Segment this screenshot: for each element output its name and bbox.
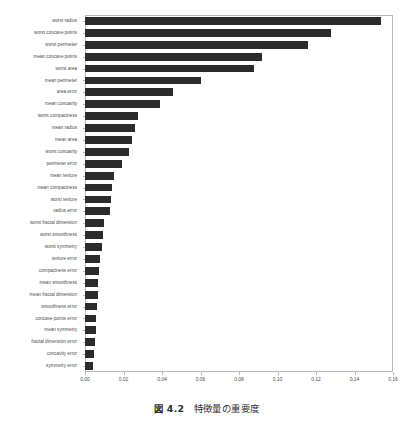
bar — [85, 279, 98, 287]
y-axis-tick-label: mean perimeter — [45, 75, 77, 87]
x-axis-tick-label: 0.16 — [388, 376, 398, 382]
x-axis-tick — [239, 372, 240, 375]
bar — [85, 172, 114, 180]
bar — [85, 77, 201, 85]
bar — [85, 41, 308, 49]
y-axis-tick-label: perimeter error — [47, 158, 77, 170]
bar — [85, 291, 98, 299]
y-axis-tick-label: worst smoothness — [40, 229, 77, 241]
bar — [85, 65, 254, 73]
bar — [85, 112, 138, 120]
figure-caption: 図 4.2特徴量の重要度 — [0, 401, 413, 415]
figure-number: 図 4.2 — [154, 403, 185, 414]
x-axis-tick — [85, 372, 86, 375]
y-axis-tick-label: mean fractal dimension — [30, 289, 78, 301]
y-axis-tick-label: worst compactness — [38, 110, 77, 122]
x-axis-tick-label: 0.00 — [80, 376, 90, 382]
bar — [85, 219, 104, 227]
y-axis-tick-label: worst concavity — [46, 146, 77, 158]
bar — [85, 303, 97, 311]
bar — [85, 196, 111, 204]
y-axis-tick-label: compactness error — [39, 265, 77, 277]
bar — [85, 124, 135, 132]
x-axis-tick — [278, 372, 279, 375]
y-axis-tick-label: worst area — [56, 63, 77, 75]
y-axis-tick-label: worst fractal dimension — [30, 217, 77, 229]
bar — [85, 136, 132, 144]
y-axis-tick-label: radius error — [54, 205, 78, 217]
bar — [85, 350, 94, 358]
y-axis-tick-label: worst radius — [52, 15, 77, 27]
figure-caption-text: 特徴量の重要度 — [194, 403, 260, 414]
x-axis-tick — [124, 372, 125, 375]
x-axis: 0.000.020.040.060.080.100.120.140.16 — [85, 372, 393, 392]
y-axis-tick-label: fractal dimension error — [31, 336, 77, 348]
bar — [85, 326, 96, 334]
bar — [85, 29, 331, 37]
y-axis-tick-label: texture error — [52, 253, 77, 265]
bar — [85, 362, 93, 370]
y-axis-tick-label: mean compactness — [37, 182, 77, 194]
y-axis-labels: worst radiusworst concave pointsworst pe… — [0, 15, 85, 372]
y-axis-tick-label: concavity error — [47, 348, 77, 360]
x-axis-tick-label: 0.06 — [196, 376, 206, 382]
x-axis-tick-label: 0.14 — [350, 376, 360, 382]
y-axis-tick-label: worst concave points — [34, 27, 77, 39]
bar-series — [85, 15, 393, 372]
x-axis-tick-label: 0.02 — [119, 376, 129, 382]
bar — [85, 160, 122, 168]
y-axis-tick-label: smoothness error — [41, 301, 77, 313]
bar — [85, 255, 100, 263]
y-axis-tick-label: symmetry error — [46, 360, 77, 372]
y-axis-tick-label: area error — [57, 86, 77, 98]
x-axis-tick-label: 0.04 — [157, 376, 167, 382]
y-axis-tick-label: mean texture — [50, 170, 77, 182]
x-axis-tick — [162, 372, 163, 375]
bar — [85, 100, 160, 108]
x-axis-tick-label: 0.12 — [311, 376, 321, 382]
y-axis-tick-label: mean radius — [52, 122, 77, 134]
y-axis-tick-label: mean symmetry — [44, 324, 77, 336]
y-axis-tick-label: mean smoothness — [39, 277, 77, 289]
x-axis-tick — [393, 372, 394, 375]
bar — [85, 88, 173, 96]
bar — [85, 315, 96, 323]
y-axis-tick-label: worst symmetry — [45, 241, 77, 253]
y-axis-tick-label: mean area — [55, 134, 77, 146]
bar — [85, 148, 129, 156]
bar — [85, 338, 95, 346]
x-axis-tick-label: 0.10 — [273, 376, 283, 382]
bar — [85, 17, 381, 25]
y-axis-tick-label: concave points error — [35, 313, 77, 325]
bar — [85, 243, 102, 251]
x-axis-tick — [201, 372, 202, 375]
feature-importance-figure: worst radiusworst concave pointsworst pe… — [0, 0, 413, 426]
y-axis-tick-label: mean concavity — [45, 98, 77, 110]
x-axis-tick — [355, 372, 356, 375]
bar — [85, 53, 262, 61]
bar — [85, 184, 112, 192]
bar — [85, 207, 110, 215]
bar — [85, 231, 103, 239]
bar — [85, 267, 99, 275]
y-axis-tick-label: mean concave points — [34, 51, 77, 63]
y-axis-tick-label: worst texture — [51, 194, 77, 206]
x-axis-tick — [316, 372, 317, 375]
y-axis-tick-label: worst perimeter — [45, 39, 77, 51]
x-axis-tick-label: 0.08 — [234, 376, 244, 382]
